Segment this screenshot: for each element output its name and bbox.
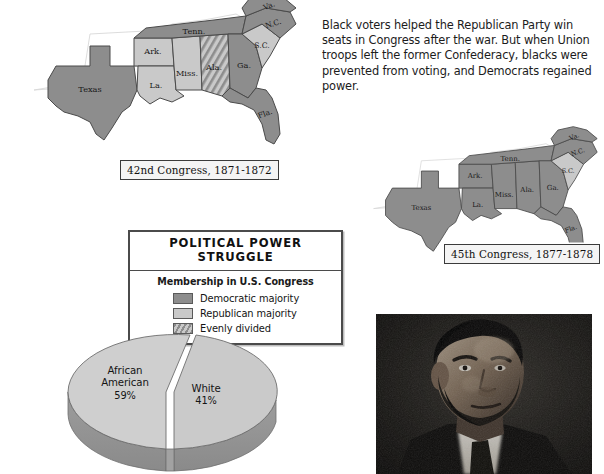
legend-item-label: Democratic majority	[200, 293, 299, 304]
swatch-democratic-icon	[173, 293, 193, 304]
pie-label-line1: African	[108, 365, 143, 376]
svg-text:Tenn.: Tenn.	[500, 155, 519, 163]
pie-label-line2: American	[101, 377, 149, 388]
svg-text:Miss.: Miss.	[176, 68, 198, 78]
pie-label-line1: White	[191, 383, 220, 394]
svg-text:La.: La.	[472, 201, 483, 209]
svg-text:Ark.: Ark.	[467, 172, 483, 180]
swatch-republican-icon	[173, 308, 193, 319]
pie-value-white: 41%	[170, 395, 242, 407]
svg-text:Ala.: Ala.	[205, 62, 222, 72]
svg-text:Miss.: Miss.	[495, 191, 514, 199]
svg-text:Texas: Texas	[78, 84, 101, 94]
svg-text:S.C.: S.C.	[254, 41, 269, 50]
legend-item-republican: Republican majority	[173, 306, 341, 320]
narrative-paragraph: Black voters helped the Republican Party…	[322, 18, 600, 94]
pie-label-white: White 41%	[170, 383, 242, 408]
svg-text:Tenn.: Tenn.	[183, 26, 206, 36]
legend-subtitle: Membership in U.S. Congress	[130, 276, 341, 287]
svg-text:Ark.: Ark.	[143, 46, 161, 56]
pie-chart: African American 59% White 41%	[62, 330, 290, 470]
infographic-page: Black voters helped the Republican Party…	[0, 0, 604, 474]
map-45th-congress: Texas Ark. La. Miss. Ala. Tenn. Ga. S.C.…	[348, 98, 604, 326]
svg-text:Texas: Texas	[411, 204, 431, 212]
legend-items: Democratic majority Republican majority …	[130, 291, 341, 335]
pie-label-african-american: African American 59%	[82, 365, 168, 402]
svg-text:Ala.: Ala.	[519, 186, 534, 194]
pie-gap-wall	[166, 449, 174, 471]
legend-title-bar: POLITICAL POWER STRUGGLE	[130, 232, 341, 271]
legend-box: POLITICAL POWER STRUGGLE Membership in U…	[128, 230, 343, 345]
portrait-photograph	[376, 314, 592, 474]
svg-text:Ga.: Ga.	[237, 60, 251, 70]
svg-text:Ga.: Ga.	[547, 184, 559, 192]
map-caption-42nd: 42nd Congress, 1871-1872	[120, 160, 279, 180]
legend-title: POLITICAL POWER STRUGGLE	[130, 236, 341, 264]
map-caption-45th: 45th Congress, 1877-1878	[444, 244, 600, 264]
legend-item-democratic: Democratic majority	[173, 291, 341, 305]
legend-item-label: Republican majority	[200, 308, 297, 319]
svg-text:S.C.: S.C.	[562, 167, 575, 175]
pie-value-african-american: 59%	[82, 390, 168, 402]
svg-text:La.: La.	[150, 80, 163, 90]
